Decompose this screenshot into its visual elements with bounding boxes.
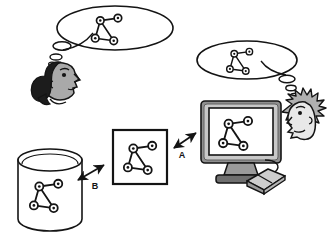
person-left-eye (62, 73, 66, 77)
database-cylinder[interactable] (18, 149, 82, 231)
person-left (31, 62, 80, 105)
thought-bubble-right (197, 41, 297, 97)
person-right-eye (298, 111, 302, 115)
database-top (18, 149, 82, 171)
thought-tail-dot-large-right (279, 75, 295, 83)
thought-tail-dot-mid (50, 54, 62, 60)
person-right (282, 88, 326, 139)
graph-drawing-box[interactable] (113, 130, 167, 184)
arrow-a: A (174, 133, 196, 160)
thought-bubble-left (49, 6, 173, 66)
person-right-face (288, 102, 315, 140)
arrow-a-line (174, 133, 196, 148)
arrow-a-label: A (179, 150, 186, 160)
arrow-b-label: B (92, 181, 99, 191)
diagram-canvas: A B (0, 0, 329, 239)
monitor-neck (224, 163, 258, 175)
